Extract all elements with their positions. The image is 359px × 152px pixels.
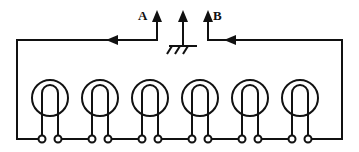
- lamp-3-filament: [142, 85, 158, 131]
- arrow-b-head: [203, 10, 213, 22]
- lamp-1-terminal-left: [39, 136, 46, 143]
- lamp-4-filament: [192, 85, 208, 131]
- lamp-5-terminal-left: [239, 136, 246, 143]
- circuit-diagram: A B: [0, 0, 359, 152]
- lamp-5-terminal-right: [255, 136, 262, 143]
- lamp-6-terminal-left: [289, 136, 296, 143]
- lamp-1-filament: [42, 85, 58, 131]
- arrow-ground-head: [178, 10, 188, 22]
- lamp-6: [282, 80, 318, 143]
- lamp-1-terminal-right: [55, 136, 62, 143]
- node-label-a: A: [138, 9, 147, 22]
- lamp-2: [82, 80, 118, 143]
- node-label-b: B: [213, 9, 222, 22]
- circuit-schematic-svg: [0, 0, 359, 152]
- lamp-1: [32, 80, 68, 143]
- lamp-5: [232, 80, 268, 143]
- lamp-4-terminal-left: [189, 136, 196, 143]
- lamp-2-filament: [92, 85, 108, 131]
- arrow-a-head: [152, 10, 162, 22]
- lamp-3: [132, 80, 168, 143]
- lamp-5-filament: [242, 85, 258, 131]
- lamp-3-terminal-left: [139, 136, 146, 143]
- lamp-6-filament: [292, 85, 308, 131]
- ground-icon: [167, 46, 197, 54]
- lamp-2-terminal-right: [105, 136, 112, 143]
- lamp-4-terminal-right: [205, 136, 212, 143]
- lamp-3-terminal-right: [155, 136, 162, 143]
- current-flow-left-arrowhead: [106, 35, 118, 45]
- lamp-2-terminal-left: [89, 136, 96, 143]
- current-flow-right-arrowhead: [224, 35, 236, 45]
- lamp-4: [182, 80, 218, 143]
- lamp-6-terminal-right: [305, 136, 312, 143]
